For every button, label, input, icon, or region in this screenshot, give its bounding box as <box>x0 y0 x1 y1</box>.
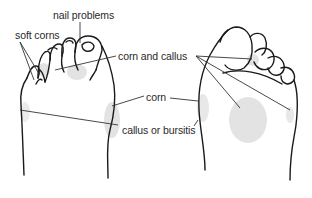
label-callus-or-bursitis: callus or bursitis <box>122 125 195 136</box>
leader-corn-right <box>170 98 198 101</box>
label-corn-and-callus: corn and callus <box>118 51 187 62</box>
label-soft-corns: soft corns <box>15 30 60 41</box>
leader-corn-and-callus-r1 <box>196 56 252 59</box>
leader-corn-left <box>112 96 144 106</box>
left-foot-outline <box>21 36 115 178</box>
label-nail-problems: nail problems <box>53 10 114 21</box>
shaded-areas-left-foot <box>20 63 120 138</box>
shade-sole-center <box>229 97 267 143</box>
shade-outer-edge <box>286 107 294 123</box>
label-corn: corn <box>146 92 166 103</box>
shade-toe-callus <box>247 54 259 66</box>
foot-diagram: nail problems soft corns corn and callus… <box>0 0 312 198</box>
leader-callus-bursitis-left <box>20 110 118 125</box>
